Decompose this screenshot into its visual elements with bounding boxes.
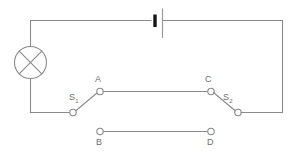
circuit-diagram: A C B D S1 S2 [0,0,296,154]
circuit-schematic-canvas [0,0,296,154]
node-c-terminal[interactable] [208,88,214,94]
node-a-terminal[interactable] [97,88,103,94]
node-b-terminal[interactable] [97,128,103,134]
switch-s1-label-subscript: 1 [75,98,79,104]
battery-symbol [155,9,163,39]
node-d-terminal[interactable] [208,128,214,134]
node-label-b: B [96,138,102,147]
switch-s2-terminal[interactable] [235,109,241,115]
lamp-symbol [15,47,47,79]
node-label-a: A [95,75,101,84]
wire-b-to-d-assembly [97,128,214,134]
node-label-d: D [207,138,214,147]
switch-s1-label: S1 [69,93,79,104]
switch-s2-label: S2 [223,93,233,104]
switch-s2-label-subscript: 2 [229,98,233,104]
node-label-c: C [205,75,212,84]
switch-s1-terminal[interactable] [70,109,76,115]
